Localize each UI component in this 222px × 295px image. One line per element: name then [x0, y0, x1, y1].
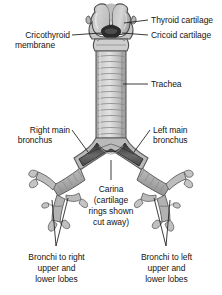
label-bronchi-right-line2: upper and: [9, 263, 104, 274]
anatomy-figure: Thyroid cartilage Cricoid cartilage Cric…: [0, 0, 222, 295]
label-cricothyroid-membrane-line1: Cricothyroid: [0, 30, 70, 41]
label-carina-line3: rings shown: [76, 206, 146, 217]
label-left-main-bronchus-line2: bronchus: [153, 135, 188, 146]
label-trachea: Trachea: [151, 79, 182, 90]
cricoid-cartilage-shape: [94, 38, 129, 51]
label-cricothyroid-membrane-line2: membrane: [0, 40, 70, 51]
cricothyroid-membrane-shape: [101, 25, 120, 38]
leader-left-bronchus: [134, 130, 150, 152]
label-cricoid-cartilage: Cricoid cartilage: [151, 30, 211, 41]
label-carina-line2: (cartilage: [76, 195, 146, 206]
label-right-main-bronchus-line2: bronchus: [0, 135, 70, 146]
label-bronchi-right-line1: Bronchi to right: [9, 252, 104, 263]
label-carina-line1: Carina: [76, 184, 146, 195]
leader-right-bronchus: [72, 130, 88, 152]
label-left-main-bronchus-line1: Left main: [153, 125, 188, 136]
label-bronchi-left-line1: Bronchi to left: [119, 252, 214, 263]
label-thyroid-cartilage: Thyroid cartilage: [151, 15, 213, 26]
trachea-shape: [96, 51, 126, 138]
label-carina-line4: cut away): [76, 217, 146, 228]
label-bronchi-right-line3: lower lobes: [9, 274, 104, 285]
label-bronchi-left-line2: upper and: [119, 263, 214, 274]
label-bronchi-left-line3: lower lobes: [119, 274, 214, 285]
label-right-main-bronchus-line1: Right main: [0, 125, 70, 136]
